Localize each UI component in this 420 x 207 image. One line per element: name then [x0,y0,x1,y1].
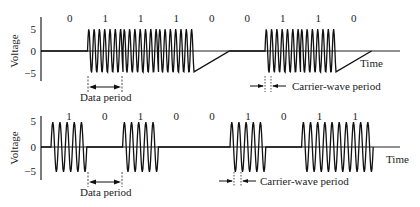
y-tick-5: 5 [31,115,37,127]
bit-label: 0 [67,12,73,24]
bit-label: 0 [209,12,215,24]
y-tick-5: 5 [31,23,37,35]
bit-label: 1 [245,110,251,122]
arrow-left-icon [89,180,96,185]
bottom-chart: Voltage 5 0 −5 Time 101001011 Data perio… [8,110,409,198]
y-tick-0: 0 [31,141,37,153]
bit-label: 1 [103,12,109,24]
bit-label: 1 [138,110,144,122]
y-axis-label: Voltage [8,131,20,165]
y-tick-neg5: −5 [24,165,36,177]
arrow-right-icon [114,180,121,185]
ask-diagram: Voltage 5 0 −5 Time 011100110 Data perio… [0,0,420,207]
bit-label: 1 [317,110,323,122]
arrow-right-icon [227,179,233,183]
bit-label: 0 [245,12,251,24]
arrow-left-icon [242,179,248,183]
x-axis-label: Time [360,57,383,69]
arrow-left-icon [89,85,96,90]
y-tick-neg5: −5 [24,67,36,79]
y-axis-label: Voltage [8,34,20,68]
bit-label: 0 [102,110,108,122]
arrow-right-icon [114,85,121,90]
arrow-left-icon [272,84,278,88]
bit-label: 0 [281,110,287,122]
data-period-label: Data period [80,186,132,198]
bit-label: 1 [316,12,322,24]
bit-labels: 101001011 [66,110,358,122]
carrier-period-label: Carrier-wave period [260,175,349,187]
bit-label: 1 [280,12,286,24]
bit-label: 1 [138,12,144,24]
bit-label: 1 [66,110,72,122]
bit-labels: 011100110 [67,12,357,24]
data-period-label: Data period [80,91,132,103]
bit-label: 1 [174,12,180,24]
carrier-signal [41,122,373,172]
top-chart: Voltage 5 0 −5 Time 011100110 Data perio… [8,12,400,103]
arrow-right-icon [258,84,264,88]
bit-label: 1 [353,110,359,122]
carrier-period-label: Carrier-wave period [292,80,381,92]
x-axis-label: Time [386,153,409,165]
y-tick-0: 0 [31,45,37,57]
bit-label: 0 [351,12,357,24]
bit-label: 0 [209,110,215,122]
bit-label: 0 [174,110,180,122]
